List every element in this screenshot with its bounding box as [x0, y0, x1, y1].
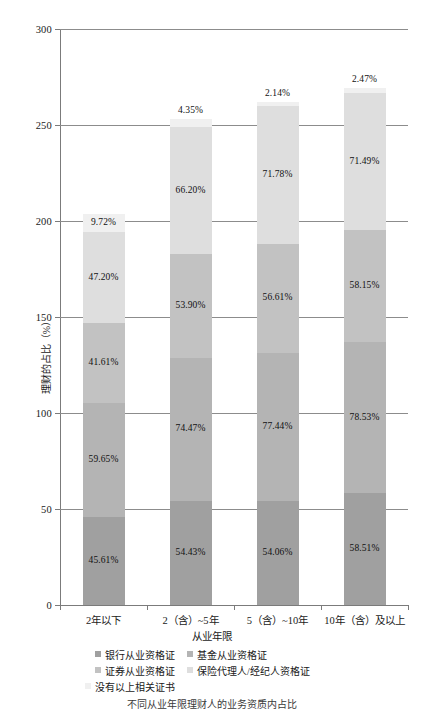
figure-caption: 不同从业年限理财人的业务资质内占比 — [0, 696, 423, 711]
bar-segment[interactable]: 58.15% — [344, 230, 386, 342]
bar-value-label: 9.72% — [91, 218, 116, 228]
bar-segment[interactable]: 74.47% — [170, 358, 212, 501]
legend-swatch-icon — [187, 651, 193, 657]
bar-value-label: 59.65% — [89, 455, 119, 465]
legend-label: 基金从业资格证 — [197, 647, 267, 662]
y-tick-label: 300 — [36, 24, 52, 35]
bar-value-label: 58.15% — [350, 281, 380, 291]
bar-group[interactable]: 54.43%74.47%53.90%66.20%4.35% — [147, 29, 234, 605]
chart-legend: 银行从业资格证 基金从业资格证 证券从业资格证 保险代理人/经纪人资格证 没有以… — [0, 646, 423, 694]
bar-value-label: 53.90% — [176, 301, 206, 311]
x-tick-mark — [147, 605, 148, 610]
bar-segment[interactable]: 77.44% — [257, 353, 299, 502]
legend-item-none[interactable]: 没有以上相关证书 — [0, 679, 175, 694]
legend-row-3: 没有以上相关证书 — [0, 678, 423, 694]
bar-segment[interactable]: 53.90% — [170, 254, 212, 357]
bar-segment[interactable]: 2.14% — [257, 102, 299, 106]
legend-label: 保险代理人/经纪人资格证 — [197, 663, 310, 678]
bar-group[interactable]: 54.06%77.44%56.61%71.78%2.14% — [234, 29, 321, 605]
x-axis-title: 从业年限 — [0, 628, 423, 643]
bar-value-label: 71.49% — [350, 157, 380, 167]
bar-series-container: 45.61%59.65%41.61%47.20%9.72%54.43%74.47… — [60, 29, 408, 605]
bar-value-label: 74.47% — [176, 424, 206, 434]
legend-label: 没有以上相关证书 — [95, 679, 175, 694]
legend-swatch-icon — [85, 683, 91, 689]
bar-segment[interactable]: 45.61% — [83, 517, 125, 605]
bar-value-label: 47.20% — [89, 273, 119, 283]
x-tick-mark — [234, 605, 235, 610]
bar-value-label: 56.61% — [263, 293, 293, 303]
x-tick-mark — [321, 605, 322, 610]
x-tick-label: 2年以下 — [60, 612, 147, 627]
bar-stack: 54.06%77.44%56.61%71.78%2.14% — [257, 102, 299, 605]
legend-swatch-icon — [187, 667, 193, 673]
bar-group[interactable]: 45.61%59.65%41.61%47.20%9.72% — [60, 29, 147, 605]
legend-label: 证券从业资格证 — [105, 663, 175, 678]
y-tick-label: 50 — [41, 504, 52, 515]
legend-label: 银行从业资格证 — [105, 647, 175, 662]
y-tick-label: 200 — [36, 216, 52, 227]
bar-segment[interactable]: 54.43% — [170, 501, 212, 606]
bar-segment[interactable]: 59.65% — [83, 403, 125, 518]
x-tick-label: 5（含）~10年 — [234, 612, 321, 627]
bar-value-label: 71.78% — [263, 170, 293, 180]
bar-segment[interactable]: 41.61% — [83, 323, 125, 403]
bar-value-label: 58.51% — [350, 544, 380, 554]
y-axis-title: 理财的占比（%） — [38, 315, 53, 393]
y-tick-label: 100 — [36, 408, 52, 419]
bar-value-label: 41.61% — [89, 358, 119, 368]
legend-item-securities[interactable]: 证券从业资格证 — [0, 663, 175, 678]
bar-segment[interactable]: 71.78% — [257, 106, 299, 244]
bar-stack: 58.51%78.53%58.15%71.49%2.47% — [344, 88, 386, 605]
legend-swatch-icon — [95, 667, 101, 673]
bar-value-label: 2.14% — [265, 89, 290, 99]
legend-swatch-icon — [95, 651, 101, 657]
bar-segment[interactable]: 9.72% — [83, 214, 125, 233]
bar-segment[interactable]: 56.61% — [257, 244, 299, 353]
bar-group[interactable]: 58.51%78.53%58.15%71.49%2.47% — [321, 29, 408, 605]
bar-segment[interactable]: 58.51% — [344, 493, 386, 605]
x-tick-label: 2（含）~5年 — [147, 612, 234, 627]
bar-value-label: 78.53% — [350, 413, 380, 423]
y-tick-label: 150 — [36, 312, 52, 323]
legend-item-bank[interactable]: 银行从业资格证 — [0, 647, 175, 662]
bar-stack: 54.43%74.47%53.90%66.20%4.35% — [170, 119, 212, 605]
bar-segment[interactable]: 54.06% — [257, 501, 299, 605]
plot-area: 050100150200250300 45.61%59.65%41.61%47.… — [60, 29, 408, 605]
bar-value-label: 2.47% — [352, 75, 377, 85]
bar-segment[interactable]: 2.47% — [344, 88, 386, 93]
bar-stack: 45.61%59.65%41.61%47.20%9.72% — [83, 214, 125, 605]
legend-item-insurance[interactable]: 保险代理人/经纪人资格证 — [175, 663, 423, 678]
x-tick-label: 10年（含）及以上 — [321, 612, 408, 627]
bar-value-label: 4.35% — [178, 106, 203, 116]
legend-item-fund[interactable]: 基金从业资格证 — [175, 647, 423, 662]
bar-value-label: 54.43% — [176, 548, 206, 558]
bar-value-label: 77.44% — [263, 422, 293, 432]
bar-segment[interactable]: 66.20% — [170, 127, 212, 254]
legend-row-2: 证券从业资格证 保险代理人/经纪人资格证 — [0, 662, 423, 678]
bar-segment[interactable]: 47.20% — [83, 232, 125, 323]
bar-value-label: 66.20% — [176, 186, 206, 196]
bar-value-label: 45.61% — [89, 556, 119, 566]
y-tick-label: 0 — [47, 600, 52, 611]
x-tick-mark — [408, 605, 409, 610]
bar-value-label: 54.06% — [263, 548, 293, 558]
bar-segment[interactable]: 78.53% — [344, 342, 386, 493]
bar-segment[interactable]: 71.49% — [344, 93, 386, 230]
legend-row-1: 银行从业资格证 基金从业资格证 — [0, 646, 423, 662]
x-tick-mark — [60, 605, 61, 610]
bar-segment[interactable]: 4.35% — [170, 119, 212, 127]
y-tick-label: 250 — [36, 120, 52, 131]
